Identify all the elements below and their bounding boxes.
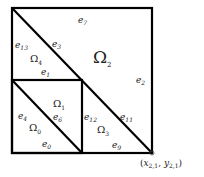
region-omega2: Ω2: [93, 47, 112, 69]
vertex-coordinate-label: (x2,1, y2,1): [140, 158, 182, 169]
edge-e6: e6: [53, 112, 62, 123]
edge-e11: e11: [120, 112, 133, 123]
region-omega0: Ω0: [29, 122, 41, 135]
edge-e9: e9: [112, 140, 121, 151]
edge-e12: e12: [84, 112, 97, 123]
region-omega1: Ω1: [53, 98, 65, 111]
edge-e3: e3: [52, 39, 61, 50]
edge-e0: e0: [42, 139, 51, 150]
region-omega3: Ω3: [97, 124, 109, 137]
edge-e7: e7: [78, 15, 87, 26]
mesh-diagram: Ω2 Ω4 Ω1 Ω0 Ω3 e7 e13 e3 e1 e2 e4 e6 e12…: [0, 0, 204, 177]
edge-e1: e1: [41, 67, 50, 78]
edge-e4: e4: [18, 111, 27, 122]
edge-e2: e2: [136, 75, 145, 86]
region-omega4: Ω4: [30, 53, 42, 66]
edge-e13: e13: [15, 40, 28, 51]
